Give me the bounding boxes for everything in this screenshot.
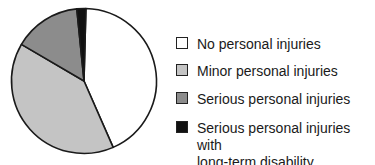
legend-item-minor-injuries: Minor personal injuries: [176, 63, 338, 80]
legend-item-serious-injuries: Serious personal injuries: [176, 91, 350, 108]
legend-label: Serious personal injuries with long-term…: [197, 120, 375, 165]
legend-label: Serious personal injuries: [197, 91, 350, 108]
legend-item-long-term-disability: Serious personal injuries with long-term…: [176, 120, 375, 165]
legend-swatch: [176, 64, 188, 76]
legend-swatch: [176, 92, 188, 104]
legend-label: No personal injuries: [197, 36, 321, 53]
pie-chart: [0, 0, 170, 165]
legend-swatch: [176, 37, 188, 49]
legend: No personal injuries Minor personal inju…: [176, 0, 375, 165]
legend-swatch: [176, 121, 188, 133]
legend-label: Minor personal injuries: [197, 63, 338, 80]
legend-item-no-injuries: No personal injuries: [176, 36, 321, 53]
